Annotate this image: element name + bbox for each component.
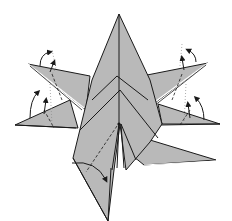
arrow-lower-left [30, 92, 38, 118]
upper-left-flap [28, 64, 90, 110]
arrow-upper-left [40, 52, 50, 66]
lower-right-flap [158, 104, 220, 127]
diagram-svg [0, 0, 232, 221]
arrow-upper-right [188, 50, 196, 62]
origami-diagram: star-shaped origami model with six point… [0, 0, 232, 221]
central-body [73, 14, 162, 221]
